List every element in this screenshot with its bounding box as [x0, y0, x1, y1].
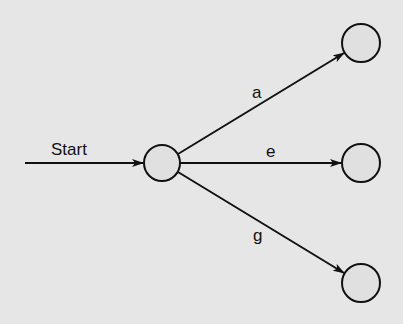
edge-label-g: g [253, 227, 262, 244]
edge-g-arrow [178, 172, 344, 273]
edge-label-a: a [252, 84, 261, 101]
edge-a-arrow [178, 53, 344, 154]
state-node-top [342, 24, 380, 62]
state-node-middle [342, 144, 380, 182]
start-label: Start [51, 141, 87, 158]
edge-label-e: e [266, 143, 275, 160]
state-diagram [0, 0, 403, 324]
state-node-center [144, 145, 180, 181]
state-node-bottom [342, 264, 380, 302]
